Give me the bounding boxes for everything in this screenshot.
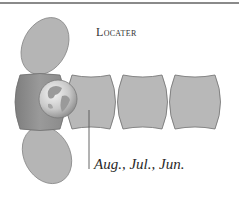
panel-4 — [170, 75, 221, 129]
globe-icon — [39, 80, 77, 118]
top-ellipse-flap — [11, 9, 78, 83]
panel-3 — [118, 75, 168, 129]
months-label: Aug., Jul., Jun. — [94, 156, 184, 173]
